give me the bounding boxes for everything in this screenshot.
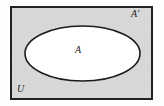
set-a-ellipse [25,26,140,81]
venn-diagram-canvas [0,0,164,106]
complement-set-label: A′ [131,9,139,19]
set-a-label: A [75,45,81,55]
venn-diagram-figure: A′ A U [0,0,164,106]
universal-set-label: U [17,84,24,94]
